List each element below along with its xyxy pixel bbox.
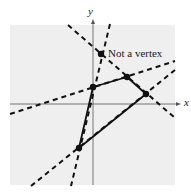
y-axis-label: y (87, 5, 93, 17)
x-axis-label: x (183, 96, 189, 108)
y-axis-arrow-icon (91, 19, 95, 24)
vertex-top (124, 74, 130, 80)
not-a-vertex-label: Not a vertex (108, 47, 163, 59)
x-axis-arrow-icon (176, 102, 181, 106)
feasible-region-diagram: x y Not a vertex (0, 0, 191, 196)
vertex-bottom (76, 145, 82, 151)
non-vertex-point (98, 51, 104, 57)
vertex-right (143, 91, 149, 97)
vertex-upper-left (90, 84, 96, 90)
